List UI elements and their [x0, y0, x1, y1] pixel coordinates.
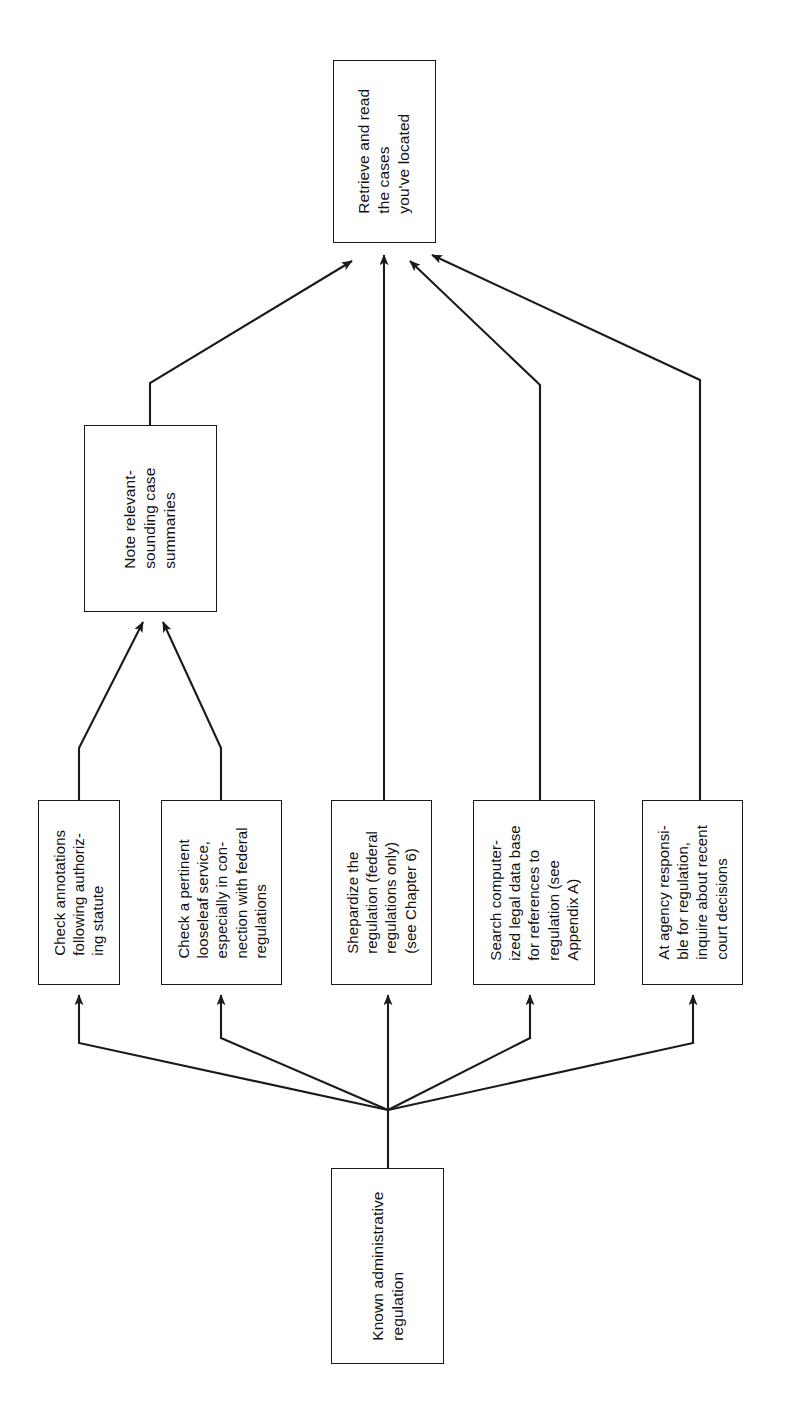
- node-agency-inquire[interactable]: At agency responsi- ble for regulation, …: [642, 800, 743, 985]
- node-check-looseleaf[interactable]: Check a pertinent looseleaf service, esp…: [161, 800, 282, 985]
- node-note-summaries[interactable]: Note relevant- sounding case summaries: [84, 425, 217, 612]
- edge-search-to-retrieve: [410, 261, 540, 800]
- node-known-regulation[interactable]: Known administrative regulation: [331, 1168, 444, 1364]
- node-label-check-looseleaf: Check a pertinent looseleaf service, esp…: [174, 827, 270, 958]
- node-shepardize[interactable]: Shepardize the regulation (federal regul…: [331, 800, 432, 985]
- node-check-annotations[interactable]: Check annotations following authoriz- in…: [38, 800, 120, 985]
- node-search-computerized[interactable]: Search computer- ized legal data base fo…: [473, 800, 595, 985]
- edge-known-to-check-looseleaf: [221, 995, 388, 1110]
- node-label-note-summaries: Note relevant- sounding case summaries: [120, 468, 180, 569]
- flowchart-page: Retrieve and read the cases you've locat…: [0, 0, 792, 1416]
- node-label-check-annotations: Check annotations following authoriz- in…: [50, 830, 108, 956]
- edge-known-to-search-computerized: [388, 995, 530, 1110]
- node-label-known-regulation: Known administrative regulation: [367, 1191, 407, 1340]
- node-label-retrieve-read-cases: Retrieve and read the cases you've locat…: [354, 89, 414, 214]
- edge-check-looseleaf-to-note: [163, 622, 221, 800]
- node-label-search-computerized: Search computer- ized legal data base fo…: [486, 825, 582, 960]
- edge-check-annotations-to-note: [79, 622, 143, 800]
- edge-known-to-check-annotations: [79, 995, 388, 1110]
- edge-note-to-retrieve: [150, 261, 352, 425]
- edge-agency-to-retrieve: [432, 255, 700, 800]
- node-label-shepardize: Shepardize the regulation (federal regul…: [343, 831, 420, 954]
- edge-known-to-agency: [388, 995, 693, 1110]
- node-label-agency-inquire: At agency responsi- ble for regulation, …: [654, 825, 731, 960]
- node-retrieve-read-cases[interactable]: Retrieve and read the cases you've locat…: [333, 60, 436, 243]
